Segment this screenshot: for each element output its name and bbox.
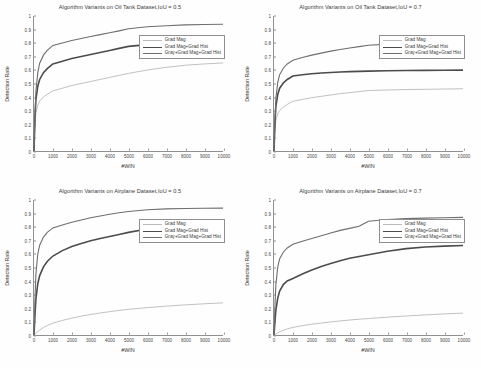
series-line [274,70,463,151]
legend-item-grad-mag: Grad Mag [143,222,221,227]
x-tick-label: 4000 [345,154,355,159]
y-tick-mark [274,336,276,337]
x-tick-label: 5000 [124,154,134,159]
legend-item-gray-grad-mag-grad-hist: Gray+Grad Mag+Grad Hist [383,51,461,56]
x-tick-label: 1000 [288,338,298,343]
series-line [274,313,463,335]
x-tick-label: 8000 [421,154,431,159]
x-tick-label: 4000 [345,338,355,343]
chart-title: Algorithm Variants on Oil Tank Dataset,I… [0,4,240,10]
x-axis-label: #WIN [33,347,223,353]
plot-area: 00.10.20.30.40.50.60.70.80.91 0100020003… [273,16,463,152]
plot-area: 00.10.20.30.40.50.60.70.80.91 0100020003… [33,200,223,336]
y-tick-label: 0.1 [25,320,31,325]
x-tick-label: 2000 [67,338,77,343]
y-tick-label: 0.2 [265,122,271,127]
y-tick-label: 0.7 [25,238,31,243]
x-tick-label: 7000 [162,338,172,343]
legend-swatch-icon [383,47,402,48]
legend-swatch-icon [143,224,162,225]
x-tick-label: 0 [33,338,36,343]
legend-item-grad-mag-grad-hist: Grad Mag+Grad Hist [143,229,221,234]
y-tick-label: 0 [268,334,271,339]
x-tick-label: 6000 [143,154,153,159]
subplot-airplane-iou07: Algorithm Variants on Airplane Dataset,I… [240,184,481,368]
subplot-airplane-iou05: Algorithm Variants on Airplane Dataset,I… [0,184,240,368]
subplot-oil-tank-iou07: Algorithm Variants on Oil Tank Dataset,I… [240,0,481,184]
y-tick-label: 0.8 [265,41,271,46]
legend-label: Gray+Grad Mag+Grad Hist [405,235,461,240]
x-tick-label: 1000 [48,154,58,159]
x-tick-label: 3000 [326,154,336,159]
y-tick-label: 0.7 [265,54,271,59]
chart-title: Algorithm Variants on Oil Tank Dataset,I… [240,4,481,10]
y-tick-label: 0.3 [265,293,271,298]
y-tick-label: 0.9 [265,211,271,216]
chart-title: Algorithm Variants on Airplane Dataset,I… [240,188,481,194]
y-tick-label: 0.4 [265,95,271,100]
chart-title: Algorithm Variants on Airplane Dataset,I… [0,188,240,194]
y-tick-label: 0.6 [265,252,271,257]
x-tick-label: 2000 [307,154,317,159]
y-tick-label: 0.4 [25,95,31,100]
legend-item-grad-mag-grad-hist: Grad Mag+Grad Hist [383,45,461,50]
y-tick-label: 0.6 [25,68,31,73]
x-tick-label: 0 [273,338,276,343]
y-tick-label: 0.6 [265,68,271,73]
y-axis-label: Detection Rate [244,66,250,102]
legend-swatch-icon [383,231,402,232]
legend-item-gray-grad-mag-grad-hist: Gray+Grad Mag+Grad Hist [143,235,221,240]
legend-item-gray-grad-mag-grad-hist: Gray+Grad Mag+Grad Hist [383,235,461,240]
y-axis-label: Detection Rate [4,250,10,286]
x-tick-label: 0 [33,154,36,159]
x-tick-label: 10000 [218,154,231,159]
x-tick-label: 10000 [458,338,471,343]
y-tick-label: 0.9 [25,211,31,216]
y-tick-label: 0.3 [25,293,31,298]
series-line [274,89,463,151]
y-axis-label: Detection Rate [244,250,250,286]
x-tick-label: 4000 [105,154,115,159]
y-axis-label: Detection Rate [4,66,10,102]
legend-label: Grad Mag+Grad Hist [165,229,208,234]
y-tick-label: 0.6 [25,252,31,257]
x-tick-label: 7000 [402,338,412,343]
legend-swatch-icon [143,40,162,41]
y-tick-label: 0.8 [265,225,271,230]
x-tick-mark [224,149,225,151]
y-tick-label: 0.1 [265,136,271,141]
x-tick-mark [464,333,465,335]
y-tick-mark [34,152,36,153]
legend-label: Gray+Grad Mag+Grad Hist [405,51,461,56]
y-tick-label: 0.1 [25,136,31,141]
x-tick-label: 9000 [200,338,210,343]
subplot-grid: Algorithm Variants on Oil Tank Dataset,I… [0,0,481,368]
x-tick-label: 5000 [364,154,374,159]
y-tick-label: 0.5 [265,266,271,271]
legend: Grad Mag Grad Mag+Grad Hist Gray+Grad Ma… [379,35,465,59]
x-tick-label: 8000 [181,338,191,343]
legend-swatch-icon [143,53,162,54]
x-tick-label: 9000 [440,338,450,343]
legend-label: Grad Mag [165,222,186,227]
x-tick-label: 3000 [326,338,336,343]
legend-label: Grad Mag+Grad Hist [165,45,208,50]
legend-label: Grad Mag+Grad Hist [405,45,448,50]
legend-item-grad-mag: Grad Mag [383,38,461,43]
legend: Grad Mag Grad Mag+Grad Hist Gray+Grad Ma… [139,35,225,59]
y-tick-label: 0.3 [265,109,271,114]
y-tick-label: 0.1 [265,320,271,325]
plot-area: 00.10.20.30.40.50.60.70.80.91 0100020003… [273,200,463,336]
legend-label: Grad Mag+Grad Hist [405,229,448,234]
series-line [274,245,463,335]
y-tick-label: 0.9 [25,27,31,32]
x-tick-label: 2000 [67,154,77,159]
legend: Grad Mag Grad Mag+Grad Hist Gray+Grad Ma… [379,219,465,243]
y-tick-label: 1 [268,14,271,19]
legend-label: Grad Mag [405,222,426,227]
x-tick-label: 1000 [48,338,58,343]
y-tick-label: 1 [268,198,271,203]
x-tick-label: 2000 [307,338,317,343]
y-tick-label: 0 [268,150,271,155]
legend-swatch-icon [143,47,162,48]
